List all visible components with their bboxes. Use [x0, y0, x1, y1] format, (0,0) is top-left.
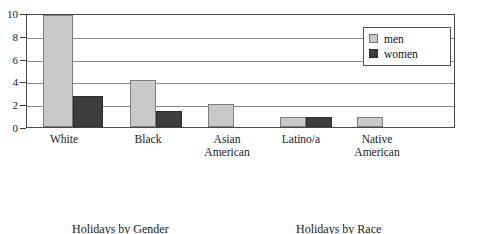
x-axis-label-black: Black: [116, 133, 180, 146]
bar-asian-american-men: [208, 104, 234, 128]
legend-item-women: women: [369, 46, 445, 61]
bar-white-women: [73, 96, 103, 127]
x-axis-label-native-american: Native American: [340, 133, 414, 159]
x-axis-label-white: White: [32, 133, 96, 146]
y-tick-text: 8: [13, 31, 19, 43]
bar-black-women: [156, 111, 182, 127]
legend-label-women: women: [384, 48, 418, 60]
y-axis-label-0: 0: [0, 123, 18, 134]
y-axis-label-8: 8: [0, 32, 18, 43]
y-axis-label-4: 4: [0, 77, 18, 88]
chart-figure: 10 8 6 4 2 0 White: [0, 0, 480, 234]
legend-item-men: men: [369, 31, 445, 46]
legend-swatch-icon-men: [369, 34, 378, 43]
y-tick-text: 10: [7, 8, 18, 20]
bar-latino-men: [280, 117, 306, 127]
y-axis-label-6: 6: [0, 55, 18, 66]
x-axis-label-asian-american: Asian American: [190, 133, 264, 159]
legend-label-men: men: [384, 33, 404, 45]
y-tick-0: [20, 128, 26, 129]
y-axis-label-2: 2: [0, 100, 18, 111]
y-tick-text: 0: [13, 122, 19, 134]
chart-legend: men women: [363, 27, 451, 66]
bar-white-men: [43, 15, 73, 127]
y-tick-text: 2: [13, 99, 19, 111]
x-axis-label-latino: Latino/a: [264, 133, 338, 146]
bar-black-men: [130, 80, 156, 127]
legend-swatch-icon-women: [369, 49, 378, 58]
y-axis-label-10: 10: [0, 9, 18, 20]
caption-holidays-by-gender: Holidays by Gender: [72, 222, 169, 234]
y-tick-text: 6: [13, 54, 19, 66]
y-tick-text: 4: [13, 76, 19, 88]
bar-native-american-men: [357, 117, 383, 127]
caption-holidays-by-race: Holidays by Race: [296, 222, 381, 234]
bar-latino-women: [306, 117, 332, 127]
gridline-4: [27, 83, 454, 84]
